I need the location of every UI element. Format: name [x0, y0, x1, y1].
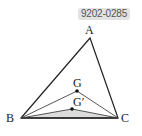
- label-g: G: [73, 76, 82, 90]
- shaded-triangle-bgprime-c: [21, 109, 118, 118]
- label-b: B: [6, 111, 14, 125]
- triangle-diagram: A B C G G′: [0, 0, 142, 136]
- label-c: C: [121, 111, 129, 125]
- label-a: A: [85, 23, 94, 37]
- triangle-abc: [21, 38, 118, 118]
- label-g-prime: G′: [73, 95, 85, 109]
